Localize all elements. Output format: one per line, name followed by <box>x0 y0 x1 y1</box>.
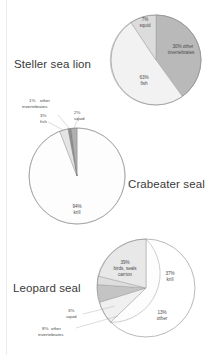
callout-other-invertebrates-name: other <box>40 98 51 103</box>
callout-squid-pct: 2% <box>74 110 80 115</box>
slice-label-fish-pct: 13% <box>157 310 166 315</box>
chart-title-steller-sea-lion: Steller sea lion <box>14 58 91 70</box>
pie-chart-steller-sea-lion: 30% other invertebrates 63% fish 7% squi… <box>104 8 208 112</box>
slice-label-squid-name: squid <box>140 23 151 28</box>
slice-label-fish-pct: 63% <box>139 75 148 80</box>
slice-label-other-invertebrates-name2: invertebrates <box>168 50 195 55</box>
callout-other-invertebrates-name2: invertebrates <box>22 104 48 109</box>
page-edge-line <box>6 0 7 355</box>
slice-label-other-invertebrates-name: other <box>183 44 194 49</box>
callout-other-invertebrates-name2: invertebrates <box>38 332 64 337</box>
slice-label-krill-name: krill <box>74 210 81 215</box>
leader-line-other-invertebrates <box>58 115 70 129</box>
callout-other-invertebrates-pct: 8% <box>42 326 48 331</box>
chart-title-crabeater-seal: Crabeater seal <box>128 178 205 190</box>
pie-chart-crabeater-seal: 94% krill 2% squid 1% other invertebrate… <box>22 120 132 228</box>
callout-squid-name: squid <box>66 314 77 319</box>
slice-label-krill-name: krill <box>167 277 174 282</box>
callout-other-invertebrates-pct: 1% <box>29 98 35 103</box>
slice-label-birds-name: birds, seals <box>113 266 137 271</box>
slice-label-squid-pct: 7% <box>142 17 149 22</box>
pie-svg-crabeater: 94% krill 2% squid 1% other invertebrate… <box>22 120 132 228</box>
pie-svg-steller: 30% other invertebrates 63% fish 7% squi… <box>104 8 208 112</box>
callout-fish-name: fish <box>40 119 47 124</box>
callout-squid-pct: 3% <box>68 308 74 313</box>
slice-label-birds-pct: 39% <box>120 260 129 265</box>
slice-label-fish-name: other <box>157 316 168 321</box>
callout-fish-pct: 3% <box>40 113 46 118</box>
pie-chart-leopard-seal: 37% krill 13% other 8% other invertebrat… <box>90 232 202 344</box>
callout-other-invertebrates-name: other <box>51 326 62 331</box>
slice-label-krill-pct: 37% <box>165 271 174 276</box>
pie-svg-leopard: 37% krill 13% other 8% other invertebrat… <box>90 232 202 344</box>
chart-title-leopard-seal: Leopard seal <box>13 282 81 294</box>
slice-label-other-invertebrates-pct: 30% <box>172 44 181 49</box>
figure-root: 30% other invertebrates 63% fish 7% squi… <box>0 0 217 355</box>
slice-label-fish-name: fish <box>140 81 148 86</box>
slice-label-birds-name2: carrion <box>118 272 132 277</box>
slice-label-krill-pct: 94% <box>72 204 81 209</box>
leader-line-fish <box>48 122 63 130</box>
callout-squid-name: squid <box>74 116 85 121</box>
